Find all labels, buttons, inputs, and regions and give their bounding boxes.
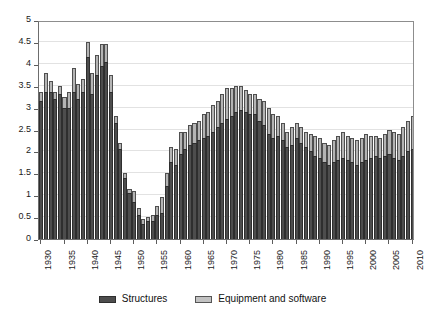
bar-segment-structures bbox=[346, 160, 350, 239]
x-tick-label: 1930 bbox=[44, 250, 53, 270]
x-tick-label: 1940 bbox=[91, 250, 100, 270]
bar-segment-equipment bbox=[392, 132, 396, 158]
bar-segment-equipment bbox=[137, 208, 141, 215]
bar-segment-equipment bbox=[174, 149, 178, 164]
bar-column bbox=[81, 79, 85, 239]
bar-column bbox=[95, 55, 99, 239]
bar-segment-equipment bbox=[58, 86, 62, 95]
x-tick-label: 1980 bbox=[276, 250, 285, 270]
bar-segment-equipment bbox=[318, 138, 322, 158]
bar-segment-equipment bbox=[183, 132, 187, 150]
plot-area bbox=[38, 21, 414, 240]
legend-item-structures: Structures bbox=[99, 294, 168, 304]
bar-segment-equipment bbox=[253, 94, 257, 114]
bar-column bbox=[230, 88, 234, 239]
bar-column bbox=[90, 73, 94, 239]
bar-column bbox=[295, 123, 299, 239]
bar-segment-equipment bbox=[397, 134, 401, 160]
bar-column bbox=[309, 134, 313, 239]
bar-column bbox=[374, 136, 378, 239]
bar-column bbox=[313, 136, 317, 239]
bar-column bbox=[44, 73, 48, 239]
bar-segment-equipment bbox=[188, 125, 192, 145]
bar-segment-equipment bbox=[123, 173, 127, 177]
bar-segment-equipment bbox=[86, 42, 90, 57]
x-tick-label: 1985 bbox=[300, 250, 309, 270]
bar-segment-structures bbox=[100, 66, 104, 239]
bar-segment-equipment bbox=[141, 219, 145, 223]
bar-column bbox=[169, 147, 173, 239]
bar-segment-structures bbox=[387, 154, 391, 239]
bar-column bbox=[364, 134, 368, 239]
bar-segment-structures bbox=[202, 138, 206, 239]
y-tick-label: 4.5 bbox=[18, 37, 31, 46]
bar-column bbox=[304, 132, 308, 239]
bar-segment-equipment bbox=[271, 114, 275, 138]
bar-segment-equipment bbox=[262, 101, 266, 125]
bar-column bbox=[220, 94, 224, 239]
bar-column bbox=[225, 88, 229, 239]
bar-segment-structures bbox=[76, 99, 80, 239]
bar-column bbox=[151, 215, 155, 239]
bar-segment-equipment bbox=[364, 134, 368, 160]
bar-segment-structures bbox=[411, 149, 414, 239]
y-tick-label: 3.5 bbox=[18, 81, 31, 90]
bar-segment-structures bbox=[179, 154, 183, 239]
bar-segment-equipment bbox=[257, 99, 261, 121]
bar-column bbox=[39, 92, 43, 239]
bar-column bbox=[174, 149, 178, 239]
y-tick-label: 0.5 bbox=[18, 212, 31, 221]
bar-segment-equipment bbox=[127, 189, 131, 193]
bar-column bbox=[276, 116, 280, 239]
bar-segment-structures bbox=[267, 134, 271, 239]
bar-column bbox=[206, 112, 210, 239]
bar-segment-structures bbox=[230, 116, 234, 239]
x-tick-label: 1965 bbox=[207, 250, 216, 270]
bar-column bbox=[290, 127, 294, 239]
x-tick-label: 2010 bbox=[416, 250, 425, 270]
bar-segment-equipment bbox=[76, 84, 80, 99]
bar-segment-equipment bbox=[411, 116, 414, 149]
bar-segment-equipment bbox=[276, 116, 280, 136]
bar-column bbox=[192, 123, 196, 239]
bar-column bbox=[58, 86, 62, 239]
bar-segment-structures bbox=[295, 138, 299, 239]
bar-segment-equipment bbox=[336, 136, 340, 160]
bar-column bbox=[360, 138, 364, 239]
bar-segment-structures bbox=[67, 108, 71, 239]
bar-segment-structures bbox=[109, 92, 113, 239]
bar-column bbox=[137, 208, 141, 239]
bar-segment-structures bbox=[257, 121, 261, 239]
x-tick-label: 1975 bbox=[253, 250, 262, 270]
bar-segment-equipment bbox=[387, 130, 391, 154]
stacked-bar-chart: 00.511.522.533.544.55 193019351940194519… bbox=[0, 0, 425, 324]
bar-column bbox=[114, 116, 118, 239]
bar-column bbox=[267, 108, 271, 239]
bar-column bbox=[141, 219, 145, 239]
bar-segment-equipment bbox=[53, 92, 57, 99]
bar-segment-structures bbox=[369, 158, 373, 239]
bar-segment-structures bbox=[383, 156, 387, 239]
bar-segment-structures bbox=[299, 143, 303, 239]
bar-column bbox=[118, 143, 122, 239]
bar-segment-equipment bbox=[62, 97, 66, 108]
bar-segment-structures bbox=[72, 92, 76, 239]
bar-segment-equipment bbox=[44, 73, 48, 93]
x-tick-label: 1995 bbox=[346, 250, 355, 270]
bar-segment-equipment bbox=[146, 217, 150, 221]
bar-segment-equipment bbox=[239, 86, 243, 110]
bar-segment-equipment bbox=[304, 132, 308, 147]
y-tick-label: 5 bbox=[26, 15, 31, 24]
bar-segment-structures bbox=[285, 147, 289, 239]
bar-column bbox=[378, 138, 382, 239]
bar-segment-structures bbox=[234, 112, 238, 239]
bar-segment-equipment bbox=[211, 105, 215, 131]
bar-segment-equipment bbox=[169, 147, 173, 162]
bars-layer bbox=[39, 22, 413, 239]
bar-segment-equipment bbox=[39, 92, 43, 101]
bar-segment-structures bbox=[183, 149, 187, 239]
bar-column bbox=[123, 173, 127, 239]
bar-segment-equipment bbox=[132, 191, 136, 202]
bar-column bbox=[109, 75, 113, 239]
bar-segment-structures bbox=[151, 221, 155, 239]
